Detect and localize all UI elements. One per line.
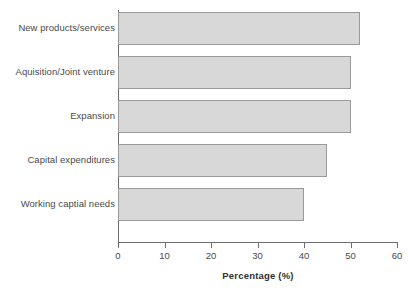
x-tick-label-20: 20 (191, 250, 231, 261)
x-tick-label-50: 50 (331, 250, 371, 261)
x-axis-title: Percentage (%) (118, 270, 398, 281)
plot-area (118, 10, 397, 242)
bar-aquisition-joint-venture (118, 56, 351, 89)
category-label-capital-expenditures: Capital expenditures (0, 154, 115, 165)
category-label-expansion: Expansion (0, 110, 115, 121)
bar-capital-expenditures (118, 144, 327, 177)
x-tick-50 (351, 243, 352, 248)
x-tick-label-0: 0 (98, 250, 138, 261)
bar-working-captial-needs (118, 188, 304, 221)
x-tick-10 (165, 243, 166, 248)
x-tick-40 (304, 243, 305, 248)
x-tick-60 (397, 243, 398, 248)
category-label-new-products-services: New products/services (0, 22, 115, 33)
category-label-working-captial-needs: Working captial needs (0, 198, 115, 209)
x-tick-0 (118, 243, 119, 248)
x-tick-30 (258, 243, 259, 248)
x-tick-label-10: 10 (145, 250, 185, 261)
x-tick-label-40: 40 (284, 250, 324, 261)
x-tick-label-30: 30 (238, 250, 278, 261)
bar-new-products-services (118, 12, 360, 45)
x-tick-20 (211, 243, 212, 248)
horizontal-bar-chart: New products/services Aquisition/Joint v… (0, 0, 413, 292)
bar-expansion (118, 100, 351, 133)
x-tick-label-60: 60 (377, 250, 413, 261)
category-label-aquisition-joint-venture: Aquisition/Joint venture (0, 66, 115, 77)
